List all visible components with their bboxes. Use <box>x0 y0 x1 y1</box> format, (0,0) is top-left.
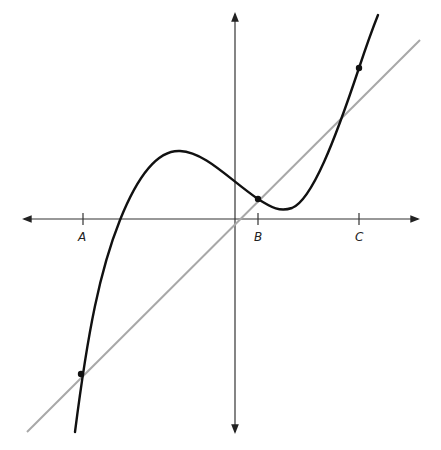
label-a: A <box>78 230 86 244</box>
intersection-point-a <box>78 371 84 377</box>
intersection-point-c <box>356 65 362 71</box>
intersection-point-b <box>255 196 261 202</box>
cubic-curve <box>75 15 378 432</box>
graph-canvas <box>0 0 441 450</box>
label-b: B <box>254 230 262 244</box>
label-c: C <box>355 230 363 244</box>
